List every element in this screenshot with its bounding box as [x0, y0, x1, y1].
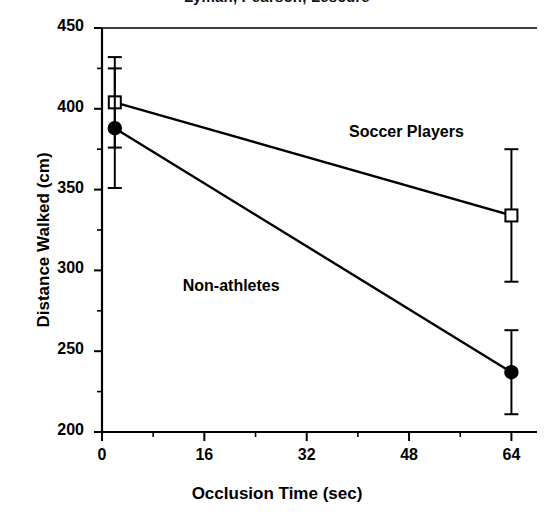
series-annotation-1: Non-athletes [183, 277, 280, 295]
y-tick-label: 300 [24, 259, 84, 277]
y-tick-label: 350 [24, 179, 84, 197]
axes-group [94, 28, 537, 441]
series-line-1 [115, 128, 512, 372]
chart-figure: Lyman, Pearson, Lescure Distance Walked … [0, 0, 554, 518]
marker-filled-circle [108, 122, 121, 135]
chart-title: Lyman, Pearson, Lescure [0, 0, 554, 5]
x-tick-label: 32 [277, 446, 337, 464]
series-line-0 [115, 102, 512, 215]
series-group [108, 57, 519, 414]
y-tick-label: 200 [24, 421, 84, 439]
x-tick-label: 48 [379, 446, 439, 464]
y-axis-title: Distance Walked (cm) [34, 100, 54, 380]
x-tick-label: 64 [481, 446, 541, 464]
marker-open-square [505, 209, 517, 221]
x-axis-title: Occlusion Time (sec) [0, 484, 554, 504]
y-tick-label: 400 [24, 98, 84, 116]
x-tick-label: 0 [72, 446, 132, 464]
y-tick-label: 250 [24, 340, 84, 358]
x-tick-label: 16 [174, 446, 234, 464]
marker-filled-circle [505, 366, 518, 379]
series-annotation-0: Soccer Players [349, 123, 464, 141]
y-tick-label: 450 [24, 17, 84, 35]
